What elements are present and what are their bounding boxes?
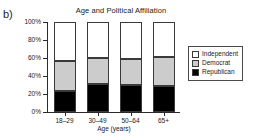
chart-title: Age and Political Affiliation (46, 6, 196, 15)
legend-label: Independent (202, 51, 238, 58)
y-tick-mark (43, 40, 48, 41)
y-tick-label: 0% (32, 109, 41, 116)
bar-segment-republican (54, 91, 76, 112)
x-axis-title: Age (years) (48, 125, 180, 132)
legend-swatch-black (192, 69, 199, 76)
bar-segment-democrat (54, 61, 76, 92)
x-tick-mark (164, 112, 165, 116)
y-tick-label: 20% (28, 91, 41, 98)
bar-segment-independent (153, 22, 175, 57)
legend-item-republican: Republican (192, 68, 238, 77)
x-tick-mark (131, 112, 132, 116)
legend-swatch-gray (192, 60, 199, 67)
chart-legend: IndependentDemocratRepublican (188, 46, 243, 81)
stacked-bar (54, 22, 76, 112)
y-tick-label: 60% (28, 55, 41, 62)
bar-segment-independent (87, 22, 109, 58)
bar-segment-independent (54, 22, 76, 61)
legend-label: Democrat (202, 60, 230, 67)
bar-segment-republican (120, 85, 142, 112)
bar-segment-democrat (153, 57, 175, 86)
bar-segment-democrat (87, 58, 109, 84)
x-axis-line (47, 112, 180, 113)
bar-segment-democrat (120, 59, 142, 85)
legend-item-democrat: Democrat (192, 59, 238, 68)
y-tick-mark (43, 76, 48, 77)
stacked-bar (153, 22, 175, 112)
y-tick-mark (43, 112, 48, 113)
y-tick-mark (43, 94, 48, 95)
stacked-bar (87, 22, 109, 112)
y-tick-label: 100% (24, 19, 41, 26)
plot-area: 0%20%40%60%80%100% 18–2930–4950–6465+ (48, 22, 180, 112)
y-axis-line (47, 22, 48, 113)
bar-segment-independent (120, 22, 142, 59)
legend-swatch-white (192, 51, 199, 58)
y-tick-label: 40% (28, 73, 41, 80)
bar-segment-republican (153, 86, 175, 112)
y-tick-mark (43, 58, 48, 59)
legend-label: Republican (202, 69, 235, 76)
panel-label: b) (3, 8, 13, 20)
x-tick-mark (98, 112, 99, 116)
x-tick-mark (65, 112, 66, 116)
x-tick-label: 65+ (144, 118, 184, 125)
y-tick-mark (43, 22, 48, 23)
stacked-bar (120, 22, 142, 112)
figure-panel-b: b) Age and Political Affiliation 0%20%40… (0, 0, 264, 140)
y-tick-label: 80% (28, 37, 41, 44)
legend-item-independent: Independent (192, 50, 238, 59)
bar-segment-republican (87, 84, 109, 112)
